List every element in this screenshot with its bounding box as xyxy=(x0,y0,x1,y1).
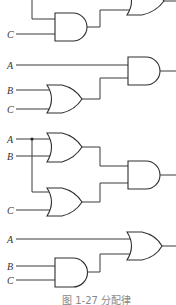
input-label-a: A xyxy=(6,60,14,71)
input-label-a: A xyxy=(6,134,14,145)
and-gate xyxy=(128,161,160,189)
or-gate xyxy=(127,0,164,15)
input-label-b: B xyxy=(7,151,13,162)
input-label-b: B xyxy=(7,261,13,272)
or-gate xyxy=(127,232,162,260)
or-gate xyxy=(47,133,82,162)
logic-diagram: C A B C A B C A B xyxy=(0,0,176,305)
input-label-c: C xyxy=(7,104,14,115)
circuit-2: A B C xyxy=(6,57,176,115)
wire xyxy=(87,10,130,27)
or-gate xyxy=(47,188,82,216)
input-label-c: C xyxy=(7,205,14,216)
or-gate xyxy=(47,85,82,113)
wire xyxy=(87,254,131,272)
circuit-3: A B C xyxy=(6,133,176,216)
circuit-1: C xyxy=(7,0,176,41)
wire xyxy=(82,147,128,166)
and-gate xyxy=(128,57,160,85)
circuit-4: A B C xyxy=(6,232,176,287)
wire xyxy=(32,0,55,19)
wire xyxy=(82,183,128,202)
figure-caption: 图 1-27 分配律 xyxy=(62,294,131,305)
input-label-a: A xyxy=(6,234,14,245)
input-label-b: B xyxy=(7,85,13,96)
input-label-c: C xyxy=(7,29,14,40)
wire xyxy=(82,78,128,99)
wire xyxy=(32,139,50,192)
and-gate xyxy=(55,13,87,41)
and-gate xyxy=(55,258,88,287)
input-label-c: C xyxy=(7,275,14,286)
